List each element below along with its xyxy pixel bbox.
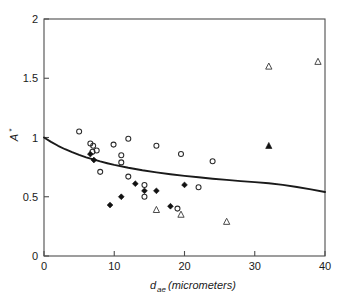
x-tick-label-4: 40: [319, 260, 331, 272]
scatter-plot: 0 0.5 1 1.5 2 0 10 20 30 40 d ae (microm…: [0, 0, 341, 298]
y-axis-title-base: A: [8, 134, 20, 142]
x-tick-label-0: 0: [41, 260, 47, 272]
y-tick-label-0: 0: [32, 250, 38, 262]
x-tick-label-2: 20: [178, 260, 190, 272]
chart-figure: 0 0.5 1 1.5 2 0 10 20 30 40 d ae (microm…: [0, 0, 341, 298]
x-axis-title-units: (micrometers): [168, 279, 236, 291]
x-axis-title-subscript: ae: [157, 285, 166, 294]
y-axis-title-superscript: *: [7, 128, 16, 131]
chart-background: [0, 0, 341, 298]
y-tick-label-4: 2: [32, 13, 38, 25]
x-axis-title-base: d: [150, 279, 157, 291]
y-tick-label-2: 1: [32, 132, 38, 144]
y-tick-label-3: 1.5: [23, 72, 38, 84]
x-tick-label-1: 10: [108, 260, 120, 272]
y-tick-label-1: 0.5: [23, 191, 38, 203]
x-tick-label-3: 30: [249, 260, 261, 272]
